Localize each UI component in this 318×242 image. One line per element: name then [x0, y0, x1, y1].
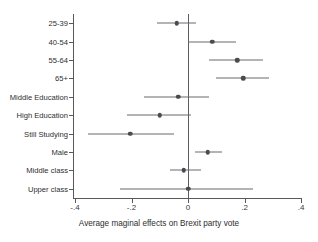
estimate-marker [128, 131, 133, 136]
x-tick-label: -.2 [127, 203, 136, 212]
x-tick-label: 0 [186, 203, 190, 212]
x-tick-label: .4 [298, 203, 305, 212]
estimate-row [0, 36, 318, 48]
estimate-row [0, 146, 318, 158]
estimate-marker [206, 150, 211, 155]
estimate-marker [174, 21, 179, 26]
estimate-row [0, 91, 318, 103]
estimate-row [0, 17, 318, 29]
estimate-marker [182, 168, 187, 173]
coefficient-plot: Average maginal effects on Brexit party … [0, 0, 318, 242]
estimate-row [0, 183, 318, 195]
estimate-marker [241, 76, 246, 81]
estimate-row [0, 54, 318, 66]
estimate-marker [158, 113, 163, 118]
estimate-row [0, 72, 318, 84]
estimate-marker [186, 187, 191, 192]
x-tick-label: .2 [241, 203, 248, 212]
estimate-row [0, 164, 318, 176]
x-axis-title: Average maginal effects on Brexit party … [0, 219, 318, 228]
estimate-row [0, 109, 318, 121]
estimate-marker [235, 58, 240, 63]
x-tick-label: -.4 [70, 203, 79, 212]
estimate-marker [176, 95, 181, 100]
estimate-marker [210, 39, 215, 44]
estimate-row [0, 128, 318, 140]
